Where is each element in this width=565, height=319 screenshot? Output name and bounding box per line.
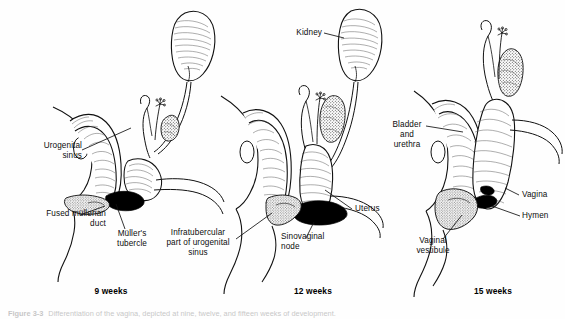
label-fused-mullerian-duct: Fused müllerian duct	[2, 209, 106, 229]
label-urogenital-sinus: Urogenital sinus	[4, 141, 82, 161]
figure-caption: Figure 3-3Differentiation of the vagina,…	[8, 309, 563, 319]
label-vagina: Vagina	[522, 190, 562, 200]
mullers-tubercle-shape-9w	[106, 191, 145, 210]
label-kidney: Kidney	[274, 28, 322, 38]
label-hymen: Hymen	[522, 211, 562, 221]
stage-label-12-weeks: 12 weeks	[282, 286, 344, 296]
label-vaginal-vestibule: Vaginal vestibule	[406, 236, 460, 256]
figure-canvas: Urogenital sinus Fused müllerian duct Mü…	[0, 0, 565, 319]
figure-caption-number: Figure 3-3	[8, 309, 43, 318]
label-sinovaginal-node: Sinovaginal node	[281, 232, 343, 252]
label-uterus: Uterus	[355, 204, 403, 214]
label-bladder-and-urethra: Bladder and urethra	[386, 120, 428, 151]
label-mullers-tubercle: Müller's tubercle	[104, 229, 160, 249]
stage-label-15-weeks: 15 weeks	[462, 286, 524, 296]
anatomy-illustration	[0, 0, 565, 319]
figure-caption-text: Differentiation of the vagina, depicted …	[48, 309, 335, 318]
stage-label-9-weeks: 9 weeks	[82, 286, 140, 296]
label-infratubercular-part-of-urogenital-sinus: Infratubercular part of urogenital sinus	[158, 228, 238, 259]
